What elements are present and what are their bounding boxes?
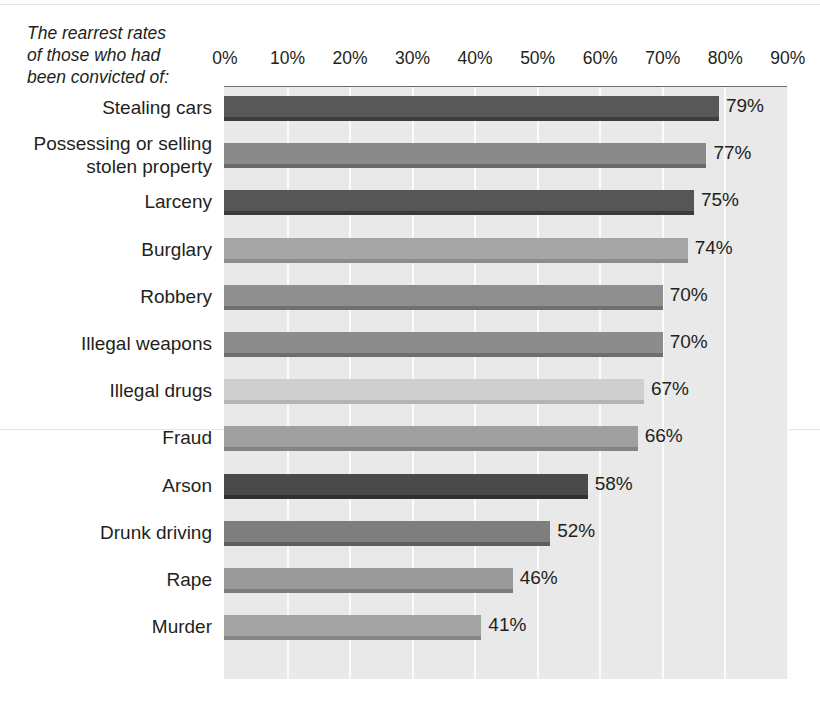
- bar-value-label: 79%: [726, 95, 764, 117]
- bar-fill: [224, 285, 663, 306]
- bar-shadow-edge: [224, 259, 688, 263]
- x-axis-tick-70: 70%: [632, 48, 694, 69]
- bar-row: 46%: [224, 559, 787, 606]
- bar-fill: [224, 568, 513, 589]
- bar[interactable]: [224, 426, 638, 451]
- category-label: Stealing cars: [0, 96, 212, 119]
- bar[interactable]: [224, 96, 719, 121]
- category-label: Drunk driving: [0, 521, 212, 544]
- x-axis-tick-60: 60%: [569, 48, 631, 69]
- bar-value-label: 66%: [645, 425, 683, 447]
- bar-shadow-edge: [224, 164, 706, 168]
- x-axis-tick-90: 90%: [757, 48, 819, 69]
- bar[interactable]: [224, 143, 706, 168]
- category-label: Arson: [0, 474, 212, 497]
- category-label: Burglary: [0, 238, 212, 261]
- bar-fill: [224, 474, 588, 495]
- bar[interactable]: [224, 568, 513, 593]
- bar-shadow-edge: [224, 447, 638, 451]
- bar[interactable]: [224, 285, 663, 310]
- bar-row: 67%: [224, 370, 787, 417]
- bar-shadow-edge: [224, 542, 550, 546]
- bar-shadow-edge: [224, 495, 588, 499]
- x-axis-tick-40: 40%: [444, 48, 506, 69]
- bar[interactable]: [224, 379, 644, 404]
- bar-row: 41%: [224, 606, 787, 653]
- bar-fill: [224, 190, 694, 211]
- bar-value-label: 75%: [701, 189, 739, 211]
- plot-area: 79%77%75%74%70%70%67%66%58%52%46%41%: [224, 86, 787, 679]
- bar-fill: [224, 379, 644, 400]
- category-label: Illegal drugs: [0, 379, 212, 402]
- bar[interactable]: [224, 521, 550, 546]
- bar-value-label: 52%: [557, 520, 595, 542]
- bar-row: 77%: [224, 134, 787, 181]
- category-label: Larceny: [0, 190, 212, 213]
- bar-shadow-edge: [224, 306, 663, 310]
- bar-value-label: 77%: [713, 142, 751, 164]
- bar-row: 75%: [224, 181, 787, 228]
- x-axis-tick-50: 50%: [507, 48, 569, 69]
- bar-value-label: 58%: [595, 473, 633, 495]
- bar-row: 70%: [224, 323, 787, 370]
- x-axis-tick-30: 30%: [382, 48, 444, 69]
- bar-value-label: 70%: [670, 284, 708, 306]
- bar-fill: [224, 615, 481, 636]
- bar-row: 52%: [224, 512, 787, 559]
- bar-shadow-edge: [224, 117, 719, 121]
- bar-row: 74%: [224, 229, 787, 276]
- bar-fill: [224, 332, 663, 353]
- bar-fill: [224, 96, 719, 117]
- bar-value-label: 46%: [520, 567, 558, 589]
- chart-page: The rearrest rates of those who had been…: [0, 0, 820, 710]
- category-label: Robbery: [0, 285, 212, 308]
- bar-shadow-edge: [224, 636, 481, 640]
- bar-value-label: 74%: [695, 237, 733, 259]
- category-label: Fraud: [0, 426, 212, 449]
- bar-value-label: 70%: [670, 331, 708, 353]
- bar[interactable]: [224, 190, 694, 215]
- bar-shadow-edge: [224, 353, 663, 357]
- bar[interactable]: [224, 332, 663, 357]
- bar-row: 58%: [224, 465, 787, 512]
- bar-row: 79%: [224, 87, 787, 134]
- bar-shadow-edge: [224, 211, 694, 215]
- x-axis-tick-0: 0%: [194, 48, 256, 69]
- x-axis-tick-80: 80%: [694, 48, 756, 69]
- bar-shadow-edge: [224, 589, 513, 593]
- category-axis-labels: Stealing carsPossessing or selling stole…: [0, 86, 212, 678]
- top-divider-rule: [0, 4, 820, 5]
- x-axis-tick-20: 20%: [319, 48, 381, 69]
- bar-fill: [224, 426, 638, 447]
- bar[interactable]: [224, 238, 688, 263]
- x-axis-tick-labels: 0%10%20%30%40%50%60%70%80%90%: [0, 48, 820, 74]
- bar[interactable]: [224, 615, 481, 640]
- bar-value-label: 41%: [488, 614, 526, 636]
- bar-row: 70%: [224, 276, 787, 323]
- bar-shadow-edge: [224, 400, 644, 404]
- gridline-90: [787, 87, 789, 679]
- bar-fill: [224, 238, 688, 259]
- bar[interactable]: [224, 474, 588, 499]
- bar-fill: [224, 143, 706, 164]
- category-label: Rape: [0, 568, 212, 591]
- bar-fill: [224, 521, 550, 542]
- category-label: Murder: [0, 615, 212, 638]
- bar-row: 66%: [224, 417, 787, 464]
- x-axis-tick-10: 10%: [257, 48, 319, 69]
- category-label: Illegal weapons: [0, 332, 212, 355]
- bar-value-label: 67%: [651, 378, 689, 400]
- category-label: Possessing or selling stolen property: [0, 132, 212, 178]
